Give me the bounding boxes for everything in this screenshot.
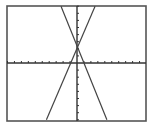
function-plot	[0, 0, 156, 132]
graph-screen	[0, 0, 156, 132]
